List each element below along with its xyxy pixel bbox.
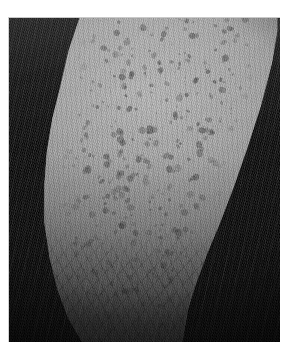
microscopy-figure-frame xyxy=(8,17,280,342)
image-field xyxy=(9,18,280,342)
page-canvas xyxy=(0,0,293,354)
sensor-noise-layer xyxy=(9,18,280,342)
tissue-band xyxy=(9,18,280,342)
